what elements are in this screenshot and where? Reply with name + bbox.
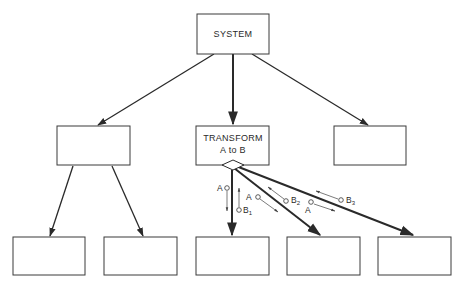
node-leaf-5[interactable] bbox=[378, 237, 451, 275]
edge-root-to-mid-left bbox=[98, 54, 214, 125]
node-system[interactable]: SYSTEM bbox=[197, 14, 269, 54]
data-couple-icon bbox=[284, 199, 289, 204]
couple-label: A bbox=[305, 205, 311, 215]
data-couple-icon bbox=[309, 200, 314, 205]
couple-label: B2 bbox=[291, 195, 301, 206]
couple-label: B3 bbox=[346, 195, 356, 206]
couple-label: A bbox=[217, 183, 223, 193]
data-couple-icon bbox=[237, 208, 242, 213]
data-couple-icon bbox=[256, 195, 261, 200]
node-leaf-4[interactable] bbox=[287, 237, 360, 275]
couple-label: B1 bbox=[243, 205, 253, 216]
flow-arrow-icon bbox=[314, 204, 335, 211]
node-transform[interactable]: TRANSFORM A to B bbox=[196, 126, 269, 165]
data-couple-icon bbox=[339, 198, 344, 203]
couple-a-to-leaf-4: A bbox=[246, 192, 278, 212]
node-leaf-2[interactable] bbox=[104, 237, 177, 275]
couple-a-to-leaf-3: A bbox=[217, 183, 229, 211]
node-transform-title: TRANSFORM bbox=[203, 133, 263, 143]
node-mid-left[interactable] bbox=[57, 126, 130, 165]
data-couple-icon bbox=[225, 186, 230, 191]
node-mid-right[interactable] bbox=[334, 126, 406, 165]
edge-mid-left-to-leaf-1 bbox=[50, 166, 73, 236]
node-leaf-1[interactable] bbox=[13, 237, 85, 275]
node-transform-subtitle: A to B bbox=[220, 145, 246, 155]
couple-label: A bbox=[246, 192, 252, 202]
node-system-label: SYSTEM bbox=[214, 29, 253, 39]
structure-chart: SYSTEM TRANSFORM A to B A B1 A B2 bbox=[0, 0, 463, 289]
edge-mid-left-to-leaf-2 bbox=[112, 166, 143, 236]
edge-root-to-mid-right bbox=[252, 54, 368, 125]
node-leaf-3[interactable] bbox=[196, 237, 269, 275]
